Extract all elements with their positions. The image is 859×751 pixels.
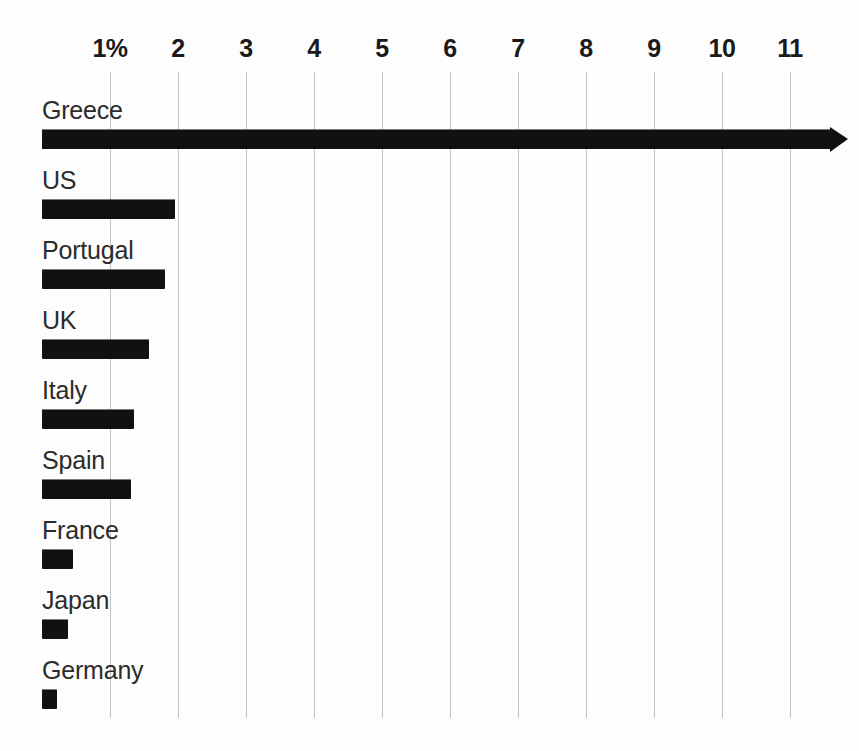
bar-category-label: Germany [42,656,143,684]
bar [42,620,68,639]
bar [42,410,134,429]
bar-row: France [0,516,859,586]
bar-chart-figure: 1%234567891011 GreeceUSPortugalUKItalySp… [0,0,859,751]
bar [42,270,165,289]
bar [42,690,57,709]
bar-category-label: Greece [42,96,123,124]
bar [42,130,831,149]
bar-category-label: Japan [42,586,109,614]
x-tick-label-5: 5 [375,33,388,63]
x-tick-label-7: 7 [511,33,524,63]
bar [42,200,175,219]
x-tick-label-11: 11 [777,33,802,63]
bar-category-label: UK [42,306,76,334]
bar-row: Germany [0,656,859,726]
bar-category-label: Portugal [42,236,134,264]
bar-row: US [0,166,859,236]
bar-row: Greece [0,96,859,166]
bar-category-label: France [42,516,119,544]
bar-category-label: US [42,166,76,194]
bar-row: Portugal [0,236,859,306]
bar-row: Japan [0,586,859,656]
bar [42,550,73,569]
bar-arrow-head-icon [830,127,848,152]
x-tick-label-2: 2 [171,33,184,63]
plot-area: 1%234567891011 GreeceUSPortugalUKItalySp… [0,0,859,751]
x-tick-label-9: 9 [647,33,660,63]
x-tick-label-10: 10 [709,33,736,63]
x-tick-label-1: 1% [92,33,127,63]
bar-row: Italy [0,376,859,446]
bar-category-label: Italy [42,376,87,404]
bar-category-label: Spain [42,446,105,474]
x-tick-label-3: 3 [239,33,252,63]
bar [42,340,149,359]
bar-row: UK [0,306,859,376]
bar [42,480,131,499]
x-tick-label-4: 4 [307,33,320,63]
x-tick-label-8: 8 [579,33,592,63]
bar-row: Spain [0,446,859,516]
x-tick-label-6: 6 [443,33,456,63]
